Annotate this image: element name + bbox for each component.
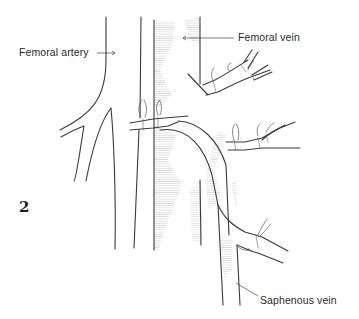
tributary-upper — [203, 50, 272, 95]
sheath-lines — [134, 17, 154, 250]
saphenous-vein-label: Saphenous vein — [260, 294, 337, 306]
shading — [154, 18, 237, 278]
femoral-vein-drawing — [130, 17, 229, 245]
femoral-artery-label: Femoral artery — [19, 46, 89, 58]
leader-lines — [97, 36, 258, 296]
tributary-middle — [226, 122, 300, 150]
figure-number: 2 — [19, 198, 29, 216]
femoral-vein-label: Femoral vein — [238, 31, 300, 43]
